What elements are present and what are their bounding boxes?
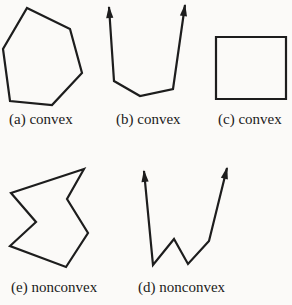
convex-hexagon-a bbox=[3, 8, 82, 105]
figure-label-d: (d) nonconvex bbox=[138, 279, 225, 296]
convex-open-path-b bbox=[109, 5, 185, 96]
diagram-canvas: (a) convex (b) convex (c) convex (e) non… bbox=[0, 0, 292, 305]
nonconvex-zigzag-polygon-e bbox=[10, 169, 88, 267]
nonconvex-open-path-d-arrowhead-end bbox=[221, 167, 228, 180]
figure-label-e: (e) nonconvex bbox=[11, 279, 97, 296]
figure-label-a: (a) convex bbox=[9, 111, 73, 128]
diagram-svg bbox=[0, 0, 292, 305]
figure-label-c: (c) convex bbox=[218, 111, 282, 128]
nonconvex-open-path-d bbox=[144, 168, 227, 265]
figure-label-b: (b) convex bbox=[116, 111, 181, 128]
convex-square-c bbox=[216, 37, 286, 99]
